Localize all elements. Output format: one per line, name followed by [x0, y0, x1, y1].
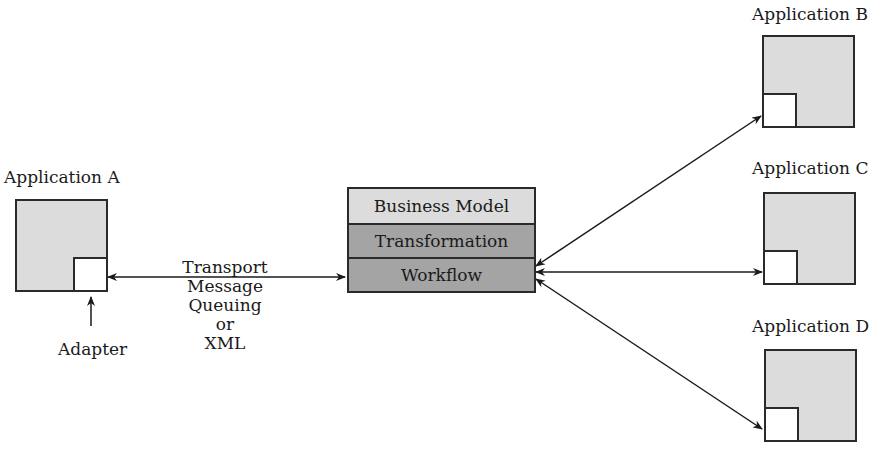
application-d-box: [764, 349, 857, 442]
adapter-label: Adapter: [58, 341, 127, 358]
hub-layer-workflow: Workflow: [349, 257, 534, 291]
transport-line-3: Queuing: [175, 296, 275, 315]
application-c-label: Application C: [752, 160, 868, 177]
application-d-label: Application D: [752, 318, 869, 335]
transport-label: Transport Message Queuing or XML: [175, 258, 275, 353]
application-b-box: [762, 35, 855, 128]
application-c-box: [763, 192, 856, 285]
integration-hub: Business Model Transformation Workflow: [347, 187, 536, 293]
adapter-b-box: [762, 93, 797, 128]
transport-line-4: or: [175, 315, 275, 334]
transport-line-1: Transport: [175, 258, 275, 277]
transport-line-5: XML: [175, 334, 275, 353]
application-a-label: Application A: [4, 169, 120, 186]
transport-line-2: Message: [175, 277, 275, 296]
arrow-hub-b: [536, 116, 761, 266]
adapter-d-box: [764, 407, 799, 442]
application-b-label: Application B: [752, 6, 868, 23]
arrow-hub-d: [536, 279, 762, 429]
hub-layer-transformation: Transformation: [349, 223, 534, 257]
application-a-box: [15, 199, 108, 292]
hub-layer-business-model: Business Model: [349, 189, 534, 223]
adapter-c-box: [763, 250, 798, 285]
adapter-a-box: [73, 257, 108, 292]
